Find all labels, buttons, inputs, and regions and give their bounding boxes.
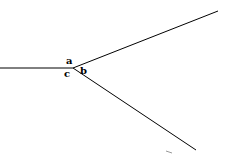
upper-ray <box>73 11 218 68</box>
stray-mark <box>166 151 172 153</box>
lower-ray <box>73 68 196 150</box>
diagram-svg: a b c <box>0 0 225 163</box>
angle-diagram: a b c <box>0 0 225 163</box>
angle-label-b: b <box>80 65 87 76</box>
angle-label-a: a <box>66 55 73 66</box>
angle-label-c: c <box>64 68 70 79</box>
